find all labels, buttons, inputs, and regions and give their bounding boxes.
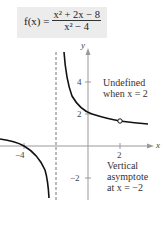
asymptote-annotation-line3: at x = −2 bbox=[107, 182, 148, 193]
hole-annotation: Undefined when x = 2 bbox=[103, 77, 148, 99]
y-axis-label: y bbox=[81, 40, 85, 50]
x-tick-label-neg4: −4 bbox=[15, 150, 25, 160]
hole-point-marker bbox=[118, 119, 122, 123]
y-tick-label-neg2: −2 bbox=[70, 173, 80, 183]
x-axis-label: x bbox=[156, 140, 160, 150]
asymptote-annotation-line2: asymptote bbox=[107, 171, 148, 182]
asymptote-annotation-line1: Vertical bbox=[107, 160, 148, 171]
hole-annotation-line1: Undefined bbox=[103, 77, 148, 88]
x-tick-label-2: 2 bbox=[117, 150, 122, 160]
y-tick-label-2: 2 bbox=[77, 109, 82, 119]
y-tick-label-4: 4 bbox=[77, 77, 82, 87]
asymptote-annotation: Vertical asymptote at x = −2 bbox=[107, 160, 148, 193]
y-axis-arrow-icon bbox=[86, 48, 91, 55]
hole-annotation-line2: when x = 2 bbox=[103, 88, 148, 99]
x-axis-arrow-icon bbox=[147, 144, 154, 149]
